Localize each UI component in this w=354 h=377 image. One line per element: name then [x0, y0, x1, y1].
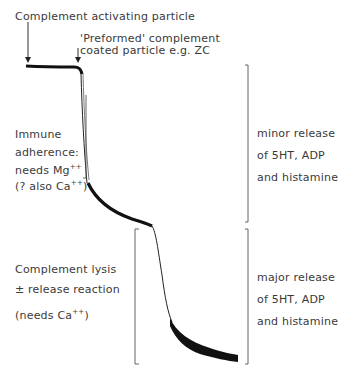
complement-activating-label: Complement activating particle — [15, 10, 195, 23]
major-line-3: and histamine — [257, 311, 338, 333]
immune-adherence-label: Immune adherence: needs Mg++ (? also Ca+… — [15, 126, 87, 194]
immune-line-3: needs Mg++ — [15, 162, 87, 180]
trace-tail — [170, 318, 238, 362]
complement-lysis-label: Complement lysis ± release reaction (nee… — [15, 259, 120, 325]
major-release-left-bracket — [135, 229, 139, 364]
minor-line-3: and histamine — [257, 167, 338, 189]
trace-baseline — [26, 66, 82, 74]
preformed-line-2: coated particle e.g. ZC — [80, 45, 220, 57]
major-line-2: of 5HT, ADP — [257, 289, 338, 311]
minor-release-bracket — [245, 65, 248, 222]
minor-line-2: of 5HT, ADP — [257, 145, 338, 167]
major-release-right-bracket — [245, 229, 248, 364]
immune-line-1: Immune — [15, 126, 87, 144]
lysis-line-1: Complement lysis — [15, 259, 120, 281]
minor-line-1: minor release — [257, 123, 338, 145]
major-release-label: major release of 5HT, ADP and histamine — [257, 267, 338, 333]
major-line-1: major release — [257, 267, 338, 289]
lysis-line-3: (needs Ca++) — [15, 307, 120, 325]
immune-line-4: (? also Ca++) — [15, 180, 87, 194]
trace-shoulder — [88, 183, 152, 226]
immune-line-2: adherence: — [15, 144, 87, 162]
preformed-complement-label: 'Preformed' complement coated particle e… — [80, 33, 220, 57]
trace-second-drop — [152, 226, 172, 322]
lysis-line-2: ± release reaction — [15, 281, 120, 307]
minor-release-label: minor release of 5HT, ADP and histamine — [257, 123, 338, 189]
